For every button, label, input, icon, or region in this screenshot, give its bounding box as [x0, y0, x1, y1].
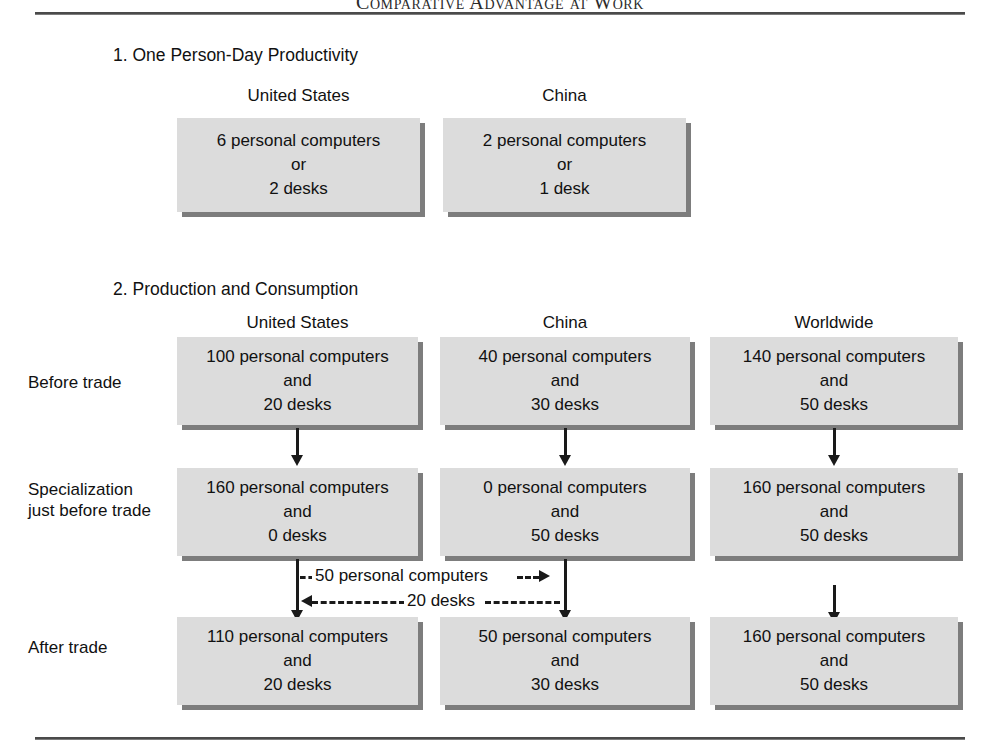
box-line: 160 personal computers: [743, 625, 925, 649]
section2-column-header-china: China: [440, 313, 690, 333]
footer-rule: [35, 737, 965, 740]
header-rule: [35, 12, 965, 15]
section1-box-china: 2 personal computers or 1 desk: [443, 118, 686, 212]
box-line: and: [551, 500, 579, 524]
box-line: and: [551, 649, 579, 673]
box-line: or: [557, 153, 572, 177]
box-line: and: [283, 369, 311, 393]
box-line: and: [283, 649, 311, 673]
section2-cell-before-trade-united-states: 100 personal computers and 20 desks: [177, 337, 418, 425]
row-label-before-trade: Before trade: [28, 372, 178, 393]
box-line: 20 desks: [263, 673, 331, 697]
trade-dash-desks-right: [485, 601, 560, 604]
box-line: 6 personal computers: [217, 129, 380, 153]
section2-cell-after-trade-united-states: 110 personal computers and 20 desks: [177, 617, 418, 705]
box-line: 1 desk: [539, 177, 589, 201]
section1-column-header-china: China: [443, 86, 686, 106]
section2-cell-before-trade-china: 40 personal computers and 30 desks: [440, 337, 690, 425]
box-line: and: [551, 369, 579, 393]
box-line: or: [291, 153, 306, 177]
trade-label-computers: 50 personal computers: [312, 566, 491, 586]
flow-arrow-us-before-to-specialization: [291, 428, 304, 466]
box-line: 30 desks: [531, 673, 599, 697]
box-line: 50 desks: [531, 524, 599, 548]
section2-column-header-worldwide: Worldwide: [710, 313, 958, 333]
box-line: 30 desks: [531, 393, 599, 417]
section1-box-united-states: 6 personal computers or 2 desks: [177, 118, 420, 212]
box-line: 2 personal computers: [483, 129, 646, 153]
trade-arrowhead-computers-to-china: [539, 570, 550, 582]
box-line: 140 personal computers: [743, 345, 925, 369]
box-line: 20 desks: [263, 393, 331, 417]
section2-column-header-united-states: United States: [177, 313, 418, 333]
box-line: 40 personal computers: [479, 345, 652, 369]
box-line: 100 personal computers: [206, 345, 388, 369]
box-line: 2 desks: [269, 177, 328, 201]
trade-dash-computers-right: [517, 576, 539, 579]
box-line: 50 personal computers: [479, 625, 652, 649]
box-line: and: [283, 500, 311, 524]
section2-cell-before-trade-worldwide: 140 personal computers and 50 desks: [710, 337, 958, 425]
box-line: and: [820, 369, 848, 393]
box-line: and: [820, 649, 848, 673]
section2-cell-specialization-china: 0 personal computers and 50 desks: [440, 468, 690, 556]
trade-dash-desks-left: [312, 601, 405, 604]
section1-column-header-united-states: United States: [177, 86, 420, 106]
flow-arrow-us-specialization-to-after: [291, 559, 304, 621]
section-1-title: 1. One Person-Day Productivity: [113, 45, 358, 66]
section-2-title: 2. Production and Consumption: [113, 279, 358, 300]
box-line: and: [820, 500, 848, 524]
box-line: 50 desks: [800, 524, 868, 548]
box-line: 0 personal computers: [483, 476, 646, 500]
trade-label-desks: 20 desks: [404, 591, 478, 611]
box-line: 160 personal computers: [206, 476, 388, 500]
box-line: 50 desks: [800, 393, 868, 417]
row-label-specialization-just-before-trade: Specialization just before trade: [28, 479, 153, 521]
box-line: 160 personal computers: [743, 476, 925, 500]
flow-arrow-china-before-to-specialization: [559, 428, 572, 466]
section2-cell-after-trade-china: 50 personal computers and 30 desks: [440, 617, 690, 705]
box-line: 110 personal computers: [207, 625, 388, 649]
box-line: 50 desks: [800, 673, 868, 697]
section2-cell-specialization-worldwide: 160 personal computers and 50 desks: [710, 468, 958, 556]
box-line: 0 desks: [268, 524, 327, 548]
section2-cell-after-trade-worldwide: 160 personal computers and 50 desks: [710, 617, 958, 705]
section2-cell-specialization-united-states: 160 personal computers and 0 desks: [177, 468, 418, 556]
row-label-after-trade: After trade: [28, 637, 178, 658]
flow-arrow-worldwide-before-to-specialization: [828, 428, 841, 466]
trade-arrowhead-desks-to-us: [301, 595, 312, 607]
flow-arrow-china-specialization-to-after: [559, 559, 572, 621]
